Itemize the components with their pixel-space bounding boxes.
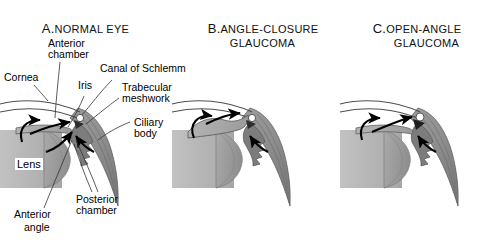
label-anterior-angle-line2: angle	[24, 222, 50, 234]
leader-anterior-chamber	[55, 62, 60, 118]
glaucoma-anatomy-figure: A.NORMAL EYE B.ANGLE-CLOSURE GLAUCOMA C.…	[0, 0, 500, 240]
leader-trabecular	[86, 98, 119, 124]
label-anterior-angle-line1: Anterior	[14, 209, 51, 221]
panel-c-illustration	[340, 101, 458, 206]
panel-b-illustration	[172, 101, 290, 206]
label-ciliary-line2: body	[134, 128, 157, 140]
label-trabecular-line2: meshwork	[122, 93, 170, 105]
label-cornea: Cornea	[4, 72, 38, 84]
panel-a-illustration	[0, 101, 118, 206]
label-posterior-chamber-line2: chamber	[76, 205, 117, 217]
label-lens: Lens	[15, 158, 43, 170]
leader-cornea	[34, 85, 48, 101]
label-iris: Iris	[78, 80, 92, 92]
eye-anatomy-artwork	[0, 0, 500, 240]
label-anterior-chamber-line2: chamber	[48, 49, 89, 61]
label-canal-of-schlemm: Canal of Schlemm	[100, 63, 186, 75]
